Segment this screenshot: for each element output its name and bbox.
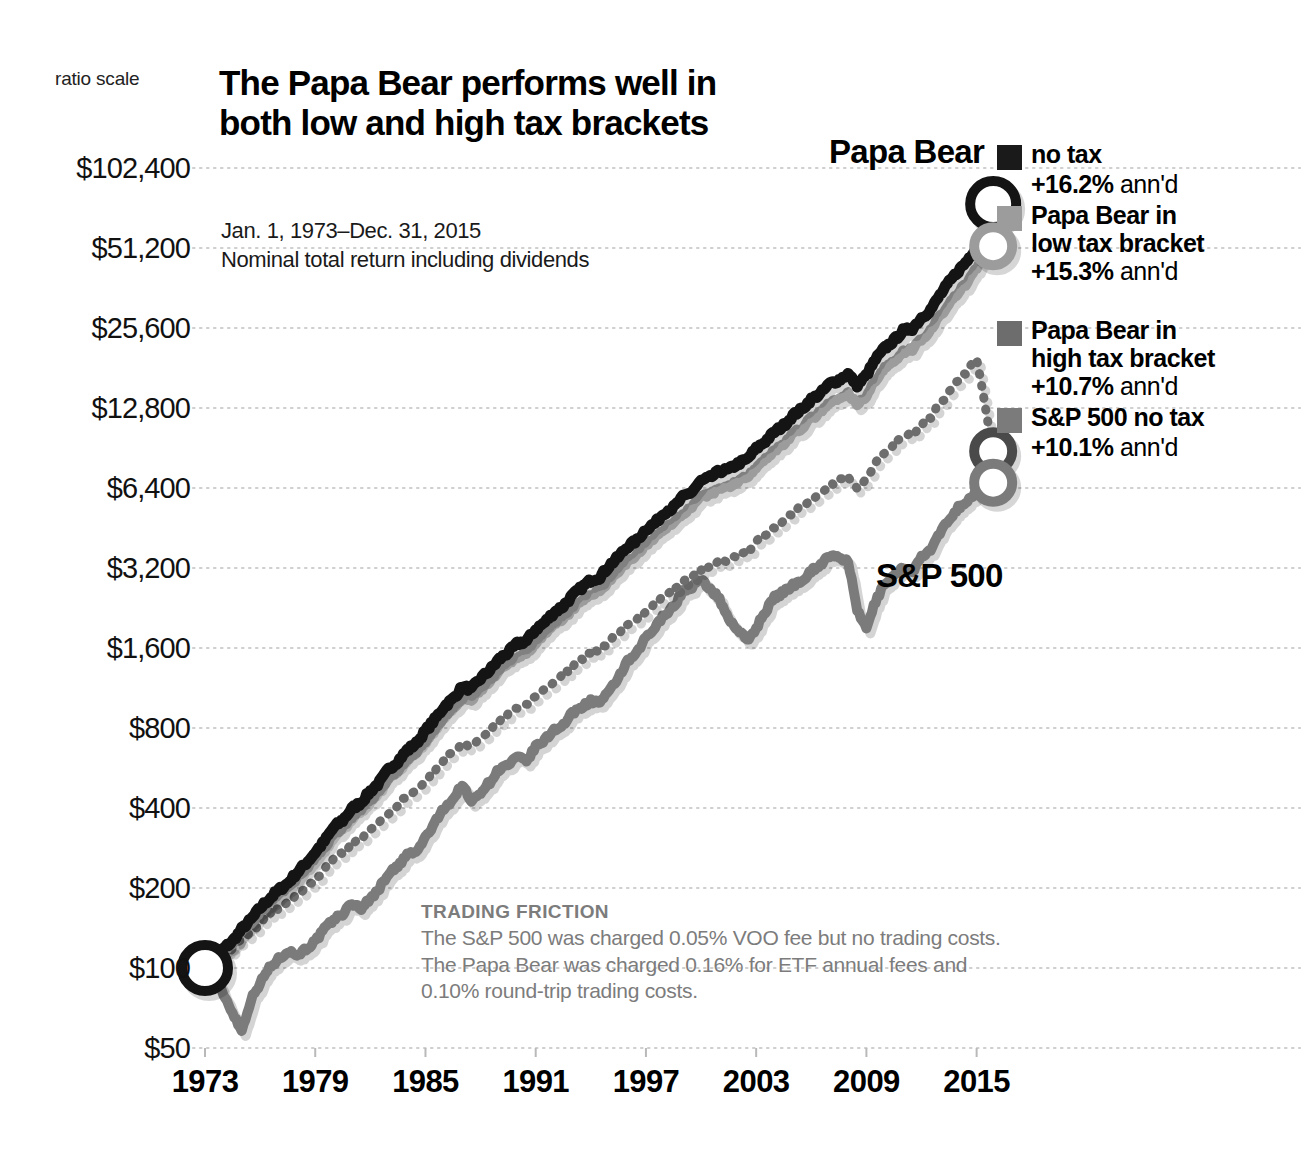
legend-swatch-icon (997, 408, 1022, 433)
x-axis-tick-label: 1997 (613, 1064, 680, 1100)
x-axis-tick-label: 1985 (392, 1064, 459, 1100)
legend-swatch-icon (997, 145, 1022, 170)
chart-legend: no tax+16.2% ann'dPapa Bear inlow tax br… (997, 140, 1297, 464)
legend-item-label: Papa Bear inhigh tax bracket (1031, 316, 1215, 372)
legend-item-return: +15.3% ann'd (1031, 257, 1297, 286)
x-axis-tick-label: 2003 (723, 1064, 790, 1100)
legend-item-label: S&P 500 no tax (1031, 403, 1204, 431)
legend-item-return: +10.7% ann'd (1031, 372, 1297, 401)
trading-friction-note: TRADING FRICTION The S&P 500 was charged… (421, 901, 1021, 1005)
legend-item[interactable]: no tax+16.2% ann'd (997, 140, 1297, 199)
series-label-sp500: S&P 500 (876, 557, 1003, 595)
legend-item-label: no tax (1031, 140, 1102, 168)
legend-item[interactable]: Papa Bear inlow tax bracket+15.3% ann'd (997, 201, 1297, 286)
legend-item-return: +16.2% ann'd (1031, 170, 1297, 199)
legend-item[interactable]: S&P 500 no tax+10.1% ann'd (997, 403, 1297, 462)
legend-item-label: Papa Bear inlow tax bracket (1031, 201, 1204, 257)
x-axis-tick-label: 2009 (833, 1064, 900, 1100)
x-axis-tick-label: 1979 (282, 1064, 349, 1100)
x-axis-tick-label: 1991 (502, 1064, 569, 1100)
chart-canvas: ratio scale The Papa Bear performs well … (0, 0, 1310, 1162)
legend-swatch-icon (997, 206, 1022, 231)
friction-body: The S&P 500 was charged 0.05% VOO fee bu… (421, 925, 1021, 1005)
legend-item[interactable]: Papa Bear inhigh tax bracket+10.7% ann'd (997, 316, 1297, 401)
legend-swatch-icon (997, 321, 1022, 346)
series-label-papa-bear: Papa Bear (829, 133, 984, 171)
x-axis-tick-label: 1973 (172, 1064, 239, 1100)
x-axis-tick-label: 2015 (943, 1064, 1010, 1100)
legend-item-return: +10.1% ann'd (1031, 433, 1297, 462)
friction-heading: TRADING FRICTION (421, 901, 1021, 923)
